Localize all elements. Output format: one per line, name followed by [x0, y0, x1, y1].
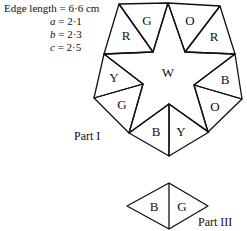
triangle-label: G — [142, 13, 151, 28]
triangle-label: Y — [176, 124, 186, 139]
part-3-left-label: B — [150, 199, 159, 214]
triangle-label: G — [117, 97, 126, 112]
triangle-label: B — [152, 124, 161, 139]
part-1-label: Part I — [74, 129, 100, 143]
rhombus-outline — [127, 183, 208, 229]
part-3-label: Part III — [198, 215, 232, 229]
triangle-label: Y — [109, 70, 119, 85]
triangle-label: R — [122, 28, 131, 43]
triangle-label: O — [210, 99, 219, 114]
center-label-w: W — [162, 65, 175, 80]
triangle-face — [168, 3, 220, 52]
triangle-label: O — [185, 13, 194, 28]
triangle-label: R — [210, 29, 219, 44]
part-3-rhombus — [127, 183, 208, 229]
part-3-right-label: G — [177, 199, 186, 214]
net-diagram: RGORBOYBGY W Part I B G Part III — [0, 0, 247, 231]
triangle-label: B — [221, 72, 230, 87]
triangle-face — [169, 104, 209, 156]
